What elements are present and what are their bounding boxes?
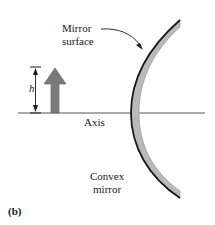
leader-arrowhead xyxy=(136,43,143,50)
label-mirror-surface-line1: Mirror xyxy=(62,22,94,35)
leader-curve xyxy=(101,29,140,45)
mirror-surface-leader xyxy=(101,29,143,50)
label-object-height: h xyxy=(29,82,35,95)
figure-panel-label: (b) xyxy=(8,205,21,218)
label-mirror-surface-line2: surface xyxy=(62,35,94,48)
dimension-arrowhead-up xyxy=(33,68,38,75)
convex-mirror-figure: Mirror surface Axis h Convex mirror (b) xyxy=(0,0,215,225)
label-convex-mirror-line1: Convex xyxy=(90,170,124,183)
label-convex-mirror: Convex mirror xyxy=(90,170,124,195)
label-axis: Axis xyxy=(84,116,105,129)
dimension-arrowhead-down xyxy=(33,105,38,112)
object-arrow xyxy=(44,68,66,113)
label-convex-mirror-line2: mirror xyxy=(90,183,124,196)
label-mirror-surface: Mirror surface xyxy=(62,22,94,47)
